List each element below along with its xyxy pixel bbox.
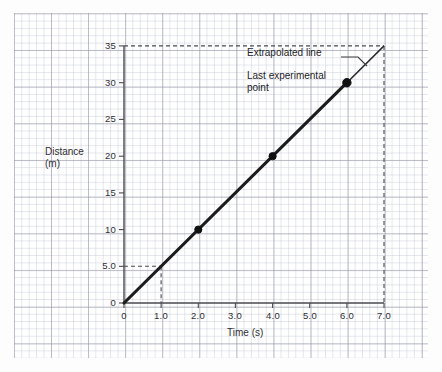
x-tick-label-1: 1.0 [149,310,173,321]
chart-page: 0 5.0 10 15 20 25 30 35 0 1.0 2.0 3.0 4.… [0,0,442,372]
annotation-last-point-line1: Last experimental [247,70,326,82]
y-tick-label-15: 15 [90,187,116,198]
y-tick-label-30: 30 [90,77,116,88]
y-tick-label-5: 5.0 [90,260,116,271]
x-tick-label-0: 0 [114,310,134,321]
x-tick-label-3: 3.0 [223,310,247,321]
annotation-last-point-line2: point [247,82,326,94]
x-tick-label-2: 2.0 [186,310,210,321]
y-axis-ticks [119,46,124,303]
y-axis-title-line1: Distance [45,146,84,158]
data-point-marker [195,226,202,233]
x-tick-label-5: 5.0 [298,310,322,321]
x-axis-ticks [124,303,384,308]
x-tick-label-4: 4.0 [261,310,285,321]
data-point-marker [269,153,276,160]
y-tick-label-20: 20 [90,150,116,161]
data-point-marker [343,79,351,87]
y-tick-label-10: 10 [90,224,116,235]
y-tick-label-35: 35 [90,40,116,51]
y-tick-label-25: 25 [90,113,116,124]
y-axis-title: Distance (m) [45,146,84,170]
x-tick-label-6: 6.0 [335,310,359,321]
experimental-data-line [124,83,347,303]
annotation-extrapolated-line: Extrapolated line [247,47,322,59]
y-axis-title-line2: (m) [45,158,84,170]
annotation-last-experimental-point: Last experimental point [247,70,326,94]
y-tick-label-0: 0 [96,297,116,308]
x-tick-label-7: 7.0 [372,310,396,321]
x-axis-title: Time (s) [227,327,263,339]
extrapolated-line-leader [341,57,367,66]
